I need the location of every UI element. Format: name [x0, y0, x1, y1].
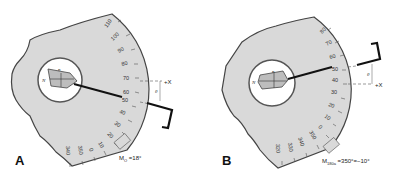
- goniometer-diagram-a: 110 100 90 80 70 60 50 40 30 20 10 0 350…: [0, 0, 196, 176]
- bracket-arm: [357, 43, 380, 65]
- panel-letter-b: B: [222, 153, 231, 168]
- scale-label: 30: [331, 89, 337, 95]
- x-axis-label: +X: [375, 82, 383, 88]
- theta-label: θ: [155, 89, 158, 94]
- x-axis-label: +X: [164, 79, 172, 85]
- crystal-label-left: N: [41, 78, 46, 83]
- scale-label: 340: [65, 146, 71, 155]
- scale-label: 320: [275, 144, 281, 153]
- arm-dashed: [348, 66, 356, 67]
- scale-label: 50: [122, 97, 128, 103]
- goniometer-diagram-b: 80 70 60 50 40 30 20 10 0 350 340 330 32…: [196, 0, 393, 176]
- panel-letter-a: A: [15, 153, 25, 168]
- panel-b: 80 70 60 50 40 30 20 10 0 350 340 330 32…: [196, 0, 393, 176]
- caption-b: M180a =350°=−10°: [322, 158, 370, 166]
- scale-label: 40: [332, 77, 338, 83]
- theta-label: θ: [367, 72, 370, 77]
- bracket-arm: [147, 103, 172, 128]
- panel-a: 110 100 90 80 70 60 50 40 30 20 10 0 350…: [0, 0, 196, 176]
- caption-a: MO =18°: [119, 155, 142, 163]
- scale-label: 60: [123, 89, 129, 95]
- scale-label: 50: [332, 66, 338, 72]
- crystal-label-left: N: [251, 80, 256, 85]
- scale-label: 70: [123, 75, 129, 81]
